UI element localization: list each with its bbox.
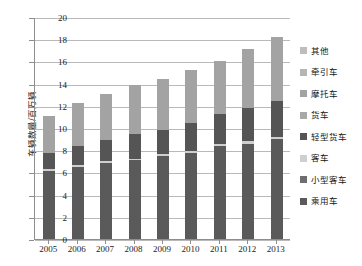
bar-segment[interactable] xyxy=(100,163,112,239)
x-tick-label: 2008 xyxy=(125,244,143,254)
legend-label: 乘用车 xyxy=(311,197,338,206)
bar-segment[interactable] xyxy=(214,61,226,114)
bar-group[interactable] xyxy=(43,116,55,239)
bar-segment[interactable] xyxy=(157,156,169,239)
legend-item[interactable]: 其他 xyxy=(300,40,362,62)
bar-segment[interactable] xyxy=(129,160,141,239)
x-tick-label: 2006 xyxy=(68,244,86,254)
legend-item[interactable]: 货车 xyxy=(300,105,362,127)
bar-segment[interactable] xyxy=(157,130,169,154)
bar-group[interactable] xyxy=(271,37,283,239)
legend-swatch-icon xyxy=(300,90,307,97)
bar-segment[interactable] xyxy=(100,94,112,140)
legend-label: 货车 xyxy=(311,111,329,120)
y-tick-mark xyxy=(29,196,34,197)
legend-item[interactable]: 小型客车 xyxy=(300,169,362,191)
y-tick-mark xyxy=(29,218,34,219)
bar-group[interactable] xyxy=(72,103,84,239)
y-tick-label: 10 xyxy=(58,125,67,134)
bar-segment[interactable] xyxy=(157,79,169,130)
legend-item[interactable]: 客车 xyxy=(300,148,362,170)
legend-item[interactable]: 乘用车 xyxy=(300,191,362,213)
legend-label: 小型客车 xyxy=(311,176,347,185)
x-tick-label: 2010 xyxy=(181,244,199,254)
legend-swatch-icon xyxy=(300,69,307,76)
y-tick-label: 6 xyxy=(63,169,68,178)
bar-group[interactable] xyxy=(214,61,226,239)
legend-swatch-icon xyxy=(300,47,307,54)
y-tick-mark xyxy=(29,129,34,130)
x-tick-label: 2012 xyxy=(238,244,256,254)
legend-label: 客车 xyxy=(311,154,329,163)
legend-label: 其他 xyxy=(311,47,329,56)
bar-segment[interactable] xyxy=(214,146,226,239)
bar-segment[interactable] xyxy=(185,123,197,151)
legend-item[interactable]: 轻型货车 xyxy=(300,126,362,148)
bar-segment[interactable] xyxy=(100,140,112,161)
y-tick-label: 8 xyxy=(63,147,68,156)
x-tick-label: 2005 xyxy=(39,244,57,254)
bar-segment[interactable] xyxy=(214,114,226,145)
bar-segment[interactable] xyxy=(129,134,141,158)
y-tick-mark xyxy=(29,240,34,241)
bar-segment[interactable] xyxy=(271,139,283,239)
y-tick-mark xyxy=(29,40,34,41)
y-tick-mark xyxy=(29,151,34,152)
y-tick-label: 2 xyxy=(63,213,68,222)
bar-segment[interactable] xyxy=(185,153,197,239)
bar-group[interactable] xyxy=(242,49,254,239)
legend-item[interactable]: 牵引车 xyxy=(300,62,362,84)
legend-swatch-icon xyxy=(300,176,307,183)
bar-series-container xyxy=(35,18,290,239)
y-tick-mark xyxy=(29,85,34,86)
bar-group[interactable] xyxy=(129,85,141,239)
y-tick-label: 16 xyxy=(58,58,67,67)
bar-segment[interactable] xyxy=(242,108,254,141)
y-tick-label: 20 xyxy=(58,14,67,23)
y-tick-mark xyxy=(29,107,34,108)
x-tick-label: 2013 xyxy=(267,244,285,254)
bar-group[interactable] xyxy=(100,94,112,239)
x-tick-label: 2009 xyxy=(153,244,171,254)
bar-group[interactable] xyxy=(157,79,169,239)
bar-segment[interactable] xyxy=(271,37,283,101)
bar-segment[interactable] xyxy=(185,70,197,123)
y-tick-mark xyxy=(29,18,34,19)
bar-segment[interactable] xyxy=(43,116,55,154)
legend-label: 牵引车 xyxy=(311,68,338,77)
bar-segment[interactable] xyxy=(242,144,254,239)
legend-swatch-icon xyxy=(300,112,307,119)
legend-swatch-icon xyxy=(300,198,307,205)
bar-segment[interactable] xyxy=(72,167,84,239)
plot-area xyxy=(34,18,290,240)
x-tick-label: 2007 xyxy=(96,244,114,254)
y-tick-label: 14 xyxy=(58,80,67,89)
y-tick-mark xyxy=(29,173,34,174)
y-tick-label: 12 xyxy=(58,102,67,111)
y-tick-label: 18 xyxy=(58,36,67,45)
y-tick-mark xyxy=(29,62,34,63)
bar-segment[interactable] xyxy=(43,153,55,169)
legend-label: 摩托车 xyxy=(311,90,338,99)
bar-group[interactable] xyxy=(185,70,197,239)
bar-segment[interactable] xyxy=(43,171,55,239)
chart-legend: 其他牵引车摩托车货车轻型货车客车小型客车乘用车 xyxy=(300,40,362,212)
bar-segment[interactable] xyxy=(72,146,84,165)
bar-segment[interactable] xyxy=(72,103,84,146)
x-tick-label: 2011 xyxy=(210,244,228,254)
bar-segment[interactable] xyxy=(242,49,254,108)
y-tick-label: 0 xyxy=(63,236,68,245)
legend-label: 轻型货车 xyxy=(311,133,347,142)
bar-segment[interactable] xyxy=(129,85,141,134)
y-tick-label: 4 xyxy=(63,191,68,200)
legend-swatch-icon xyxy=(300,133,307,140)
legend-item[interactable]: 摩托车 xyxy=(300,83,362,105)
bar-segment[interactable] xyxy=(271,101,283,137)
chart-figure: 车辆数量/百万辆 02468101214161820 2005200620072… xyxy=(0,0,362,266)
legend-swatch-icon xyxy=(300,155,307,162)
